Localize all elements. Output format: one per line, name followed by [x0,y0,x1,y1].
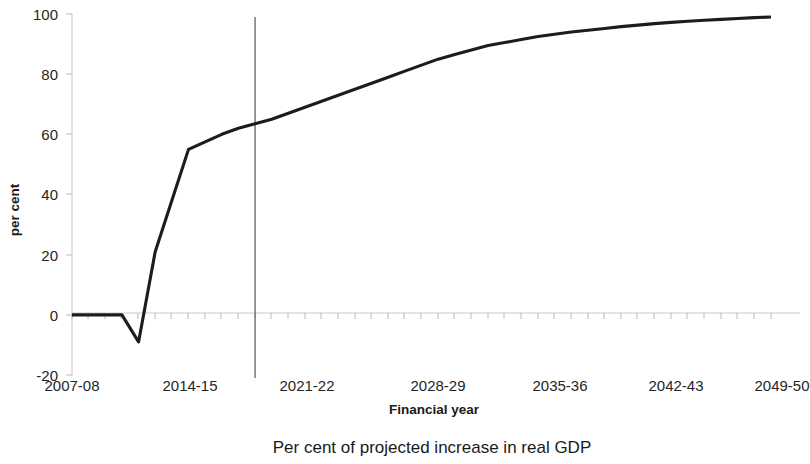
y-tick-label-100: 100 [33,6,58,23]
y-tick-label-80: 80 [41,66,58,83]
y-tick-marks [66,14,72,375]
chart-figure: 100 80 60 40 20 0 -20 per cent [0,0,810,464]
line-chart-canvas: 100 80 60 40 20 0 -20 per cent [0,0,810,464]
x-tick-label-2042-43: 2042-43 [648,377,703,394]
y-tick-label-20: 20 [41,247,58,264]
x-tick-label-2049-50: 2049-50 [754,377,809,394]
x-tick-label-2028-29: 2028-29 [410,377,465,394]
x-tick-label-2014-15: 2014-15 [162,377,217,394]
y-tick-label-60: 60 [41,126,58,143]
y-axis-title: per cent [7,183,22,236]
series-line-real-gdp [72,17,771,342]
figure-caption: Per cent of projected increase in real G… [273,438,591,457]
x-tick-label-2035-36: 2035-36 [532,377,587,394]
x-tick-label-2021-22: 2021-22 [279,377,334,394]
y-tick-label-40: 40 [41,186,58,203]
y-tick-label-0: 0 [50,307,58,324]
x-tick-label-2007-08: 2007-08 [44,377,99,394]
x-tick-marks [72,313,771,319]
x-axis-title: Financial year [389,402,480,417]
